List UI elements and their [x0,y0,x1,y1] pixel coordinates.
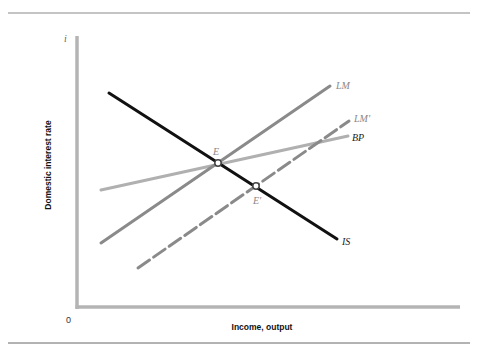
label-bp: BP [352,132,364,143]
origin-label: 0 [66,315,71,325]
bp-curve [101,136,348,190]
label-lm: LM [335,80,351,91]
x-axis-title: Income, output [232,322,293,332]
label-is: IS [341,236,350,247]
is-lm-bp-diagram: i LM LM' BP IS E E' 0 Income, output Dom… [0,0,479,349]
is-curve [109,93,337,239]
y-axis-symbol: i [64,33,67,44]
label-lm-prime: LM' [353,113,371,124]
label-e-prime: E' [252,195,262,206]
equilibrium-point-e-prime [253,183,259,189]
equilibrium-point-e [215,160,221,166]
y-axis-title: Domestic interest rate [43,120,53,210]
label-e: E [212,146,219,157]
